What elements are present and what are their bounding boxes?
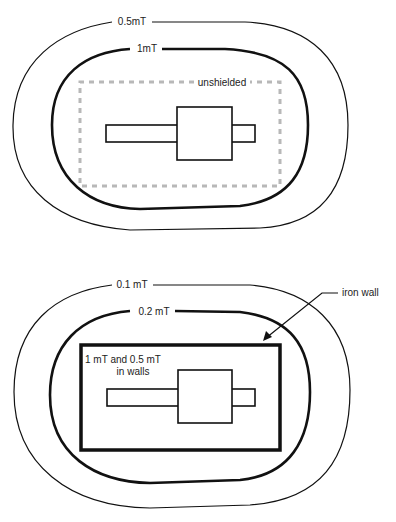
label-0-2mT: 0.2 mT: [138, 306, 169, 317]
wall-note-line1: 1 mT and 0.5 mT: [85, 354, 161, 365]
bottom-diagram: 0.1 mT 0.2 mT 1 mT and 0.5 mT in walls i…: [14, 279, 379, 508]
label-0-5mT: 0.5mT: [118, 16, 146, 27]
wall-note-line2: in walls: [117, 366, 150, 377]
label-0-1mT: 0.1 mT: [116, 279, 147, 290]
label-1mT: 1mT: [137, 43, 157, 54]
label-unshielded: unshielded: [198, 77, 246, 88]
top-diagram: 0.5mT 1mT unshielded: [13, 16, 348, 230]
arrowhead-icon: [263, 331, 272, 341]
label-iron-wall: iron wall: [342, 287, 379, 298]
motor-body: [178, 370, 232, 423]
magnetic-shielding-diagram: 0.5mT 1mT unshielded 0.1 mT 0.2 mT 1 mT …: [0, 0, 396, 522]
motor-body: [177, 107, 232, 160]
